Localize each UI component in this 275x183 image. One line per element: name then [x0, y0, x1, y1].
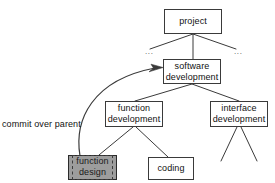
node-function-development-label-line-2: development — [108, 114, 161, 125]
ellipsis-right: ... — [234, 48, 242, 56]
edge-function-development-to-coding — [136, 127, 168, 157]
node-project[interactable]: project — [164, 9, 222, 34]
node-function-design-label-line-1: function — [76, 156, 108, 167]
node-project-label-line-1: project — [179, 16, 207, 27]
node-software-development-label-line-1: software — [175, 61, 210, 72]
node-interface-development[interactable]: interface development — [210, 101, 268, 127]
edge-interface-development-to-stub-left — [221, 127, 237, 161]
edge-software-development-to-interface-development — [192, 84, 239, 101]
diagram-connector-layer — [0, 0, 275, 183]
node-function-design[interactable]: function design — [68, 155, 117, 180]
commit-arrow-head — [149, 64, 163, 72]
node-coding-label-line-1: coding — [157, 163, 184, 174]
diagram-canvas: project ... ... software development fun… — [0, 0, 275, 183]
node-function-design-label-line-2: design — [79, 167, 106, 178]
node-function-development-label-line-1: function — [118, 103, 150, 114]
ellipsis-left: ... — [145, 48, 153, 56]
node-software-development-label-line-2: development — [166, 72, 219, 83]
edge-project-to-ellipsis-right — [193, 34, 236, 49]
node-coding[interactable]: coding — [148, 157, 194, 180]
edge-software-development-to-function-development — [135, 84, 192, 101]
edge-interface-development-to-stub-right — [241, 127, 257, 161]
annotation-commit-over-parent: commit over parent — [2, 119, 81, 130]
edge-project-to-ellipsis-left — [150, 34, 193, 49]
edge-function-development-to-function-design — [99, 127, 133, 155]
node-interface-development-label-line-1: interface — [221, 103, 256, 114]
node-software-development[interactable]: software development — [163, 59, 221, 84]
function-design-selection-outline: function design — [72, 155, 112, 180]
node-function-development[interactable]: function development — [105, 101, 163, 127]
node-interface-development-label-line-2: development — [213, 114, 266, 125]
